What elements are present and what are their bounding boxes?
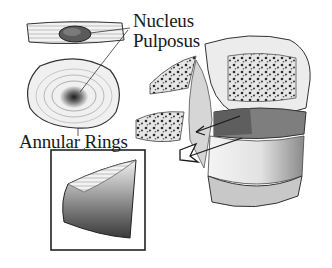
label-nucleus-line1: Nucleus <box>133 11 194 30</box>
disc-top-view <box>28 59 120 128</box>
annulus-wedge-inset <box>51 150 145 250</box>
disc-side-view <box>27 22 124 44</box>
diagram-canvas: Nucleus Pulposus Annular Rings <box>0 0 332 268</box>
vertebra-with-herniation <box>136 36 310 207</box>
label-nucleus-line2: Pulposus <box>133 31 200 50</box>
label-annular-rings: Annular Rings <box>19 132 128 151</box>
